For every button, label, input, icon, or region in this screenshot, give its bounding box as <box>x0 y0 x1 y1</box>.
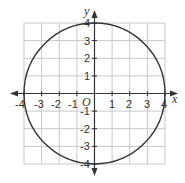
x-tick-label: 3 <box>144 98 150 110</box>
x-axis-left-arrow-icon <box>10 91 18 97</box>
y-axis-down-arrow-icon <box>92 168 98 176</box>
y-axis-up-arrow-icon <box>92 10 98 18</box>
x-tick-label: 1 <box>109 98 115 110</box>
x-tick-label: 4 <box>161 98 167 110</box>
y-axis-label: y <box>83 4 90 18</box>
y-tick-label: -1 <box>80 105 90 117</box>
x-tick-labels: -4 -3 -2 -1 1 2 3 4 <box>15 98 167 110</box>
x-axis-label: x <box>171 92 178 106</box>
y-tick-label: -2 <box>80 123 90 135</box>
y-tick-label: 2 <box>84 52 90 64</box>
x-tick-label: 2 <box>126 98 132 110</box>
x-tick-label: -2 <box>51 98 61 110</box>
x-tick-label: -4 <box>15 98 25 110</box>
x-tick-label: -1 <box>68 98 78 110</box>
y-tick-label: 4 <box>84 17 90 29</box>
coordinate-plane: x y O -4 -3 -2 -1 1 2 3 4 4 3 2 1 -1 -2 … <box>0 0 185 183</box>
y-tick-label: -4 <box>80 158 90 170</box>
y-tick-label: -3 <box>80 140 90 152</box>
y-tick-label: 1 <box>84 70 90 82</box>
x-tick-label: -3 <box>34 98 44 110</box>
y-tick-label: 3 <box>84 35 90 47</box>
